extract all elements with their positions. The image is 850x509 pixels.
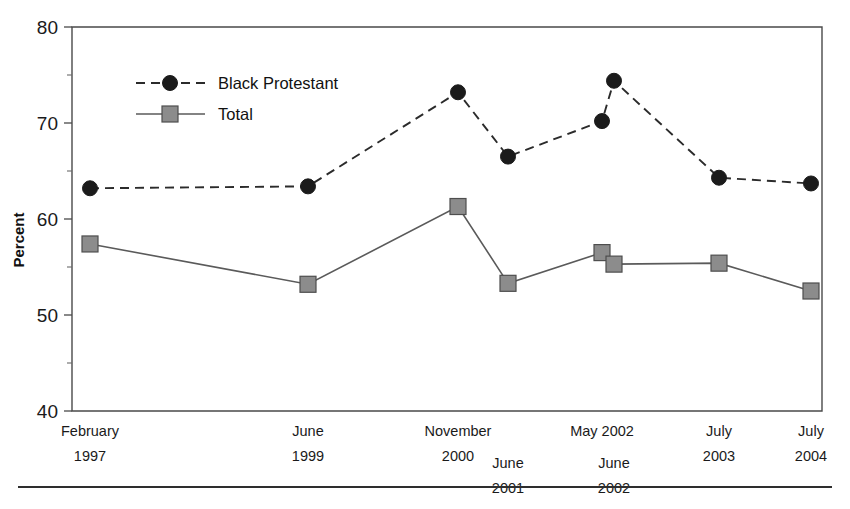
x-tick-label-line2: 1999 [292, 448, 324, 464]
data-point-black-protestant [301, 179, 316, 194]
data-point-black-protestant [451, 85, 466, 100]
data-point-total [500, 275, 516, 291]
legend-label-black-protestant: Black Protestant [218, 74, 339, 92]
data-point-black-protestant [595, 114, 610, 129]
x-tick-label-group: May 2002 [570, 423, 634, 439]
x-tick-label-line1: May 2002 [570, 423, 634, 439]
data-point-black-protestant [607, 73, 622, 88]
x-tick-label-line1: June [492, 455, 523, 471]
x-tick-label-line2: 2002 [598, 480, 630, 496]
x-tick-label-line2: 2003 [703, 448, 735, 464]
data-point-total [300, 276, 316, 292]
data-point-total [82, 236, 98, 252]
data-point-black-protestant [501, 149, 516, 164]
y-tick-label: 80 [37, 17, 58, 38]
data-point-total [450, 199, 466, 215]
data-point-total [803, 283, 819, 299]
y-tick-label: 50 [37, 305, 58, 326]
legend-label-total: Total [218, 105, 253, 123]
chart-figure: 4050607080 Percent Black Protestant Tota… [0, 0, 850, 509]
y-tick-label: 40 [37, 401, 58, 422]
x-tick-label-line1: June [598, 455, 629, 471]
legend-circle-marker-icon [163, 76, 178, 91]
y-axis-title: Percent [10, 212, 27, 267]
data-point-black-protestant [83, 181, 98, 196]
legend-entry-black-protestant[interactable]: Black Protestant [136, 74, 339, 92]
data-point-total [711, 255, 727, 271]
data-point-black-protestant [804, 176, 819, 191]
x-tick-label-line2: 1997 [74, 448, 106, 464]
legend-square-marker-icon [162, 106, 178, 122]
line-chart-canvas: 4050607080 Percent Black Protestant Tota… [0, 0, 850, 509]
y-tick-label: 70 [37, 113, 58, 134]
x-tick-label-line1: June [292, 423, 323, 439]
data-point-black-protestant [712, 170, 727, 185]
x-tick-label-line1: July [798, 423, 825, 439]
x-tick-label-line1: July [706, 423, 733, 439]
y-tick-label: 60 [37, 209, 58, 230]
data-point-total [606, 256, 622, 272]
x-tick-label-line2: 2004 [795, 448, 827, 464]
x-tick-label-line2: 2001 [492, 480, 524, 496]
x-tick-label-line1: November [425, 423, 492, 439]
x-tick-label-line1: February [61, 423, 120, 439]
x-tick-label-line2: 2000 [442, 448, 474, 464]
